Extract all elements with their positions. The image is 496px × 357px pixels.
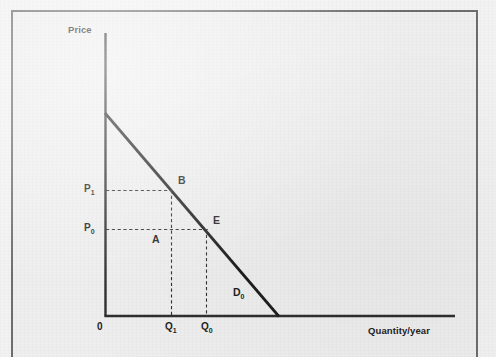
point-label-b: B (178, 174, 186, 186)
x-tick-q1-subscript: 1 (173, 327, 177, 334)
x-tick-q1-base: Q (165, 321, 173, 332)
x-tick-label-q1: Q1 (165, 321, 177, 332)
chart-canvas (0, 0, 496, 357)
curve-label-d0: D0 (233, 286, 245, 298)
y-axis-title: Price (68, 24, 92, 35)
point-label-e: E (213, 214, 220, 226)
y-tick-p0-subscript: 0 (91, 228, 95, 235)
y-tick-p1-subscript: 1 (91, 189, 95, 196)
demand-curve-d0 (105, 113, 279, 317)
x-tick-q0-base: Q (201, 321, 209, 332)
x-tick-q0-subscript: 0 (209, 327, 213, 334)
x-tick-label-q0: Q0 (201, 321, 213, 332)
origin-tick-label: 0 (97, 321, 103, 332)
demand-curve-figure: Price Quantity/year 0 P1 P0 Q1 Q0 B E A … (0, 0, 496, 357)
x-axis-title: Quantity/year (368, 325, 430, 336)
y-tick-label-p1: P1 (84, 183, 95, 194)
y-tick-label-p0: P0 (84, 222, 95, 233)
point-label-a: A (152, 233, 160, 245)
curve-d0-base: D (233, 286, 241, 298)
y-tick-p1-base: P (84, 183, 91, 194)
y-tick-p0-base: P (84, 222, 91, 233)
curve-d0-subscript: 0 (241, 293, 245, 300)
